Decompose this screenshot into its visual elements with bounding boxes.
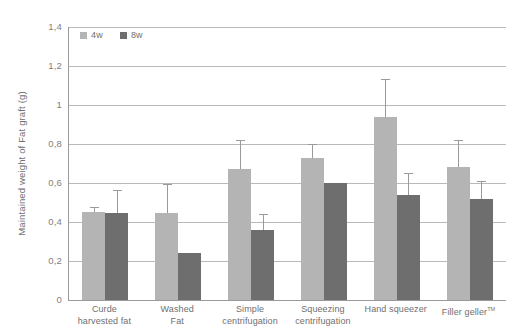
legend-item-8w: 8w [120, 31, 143, 40]
error-bar-8w-6 [481, 182, 482, 199]
legend-swatch-4w-icon [80, 32, 87, 39]
error-bar-4w-6 [458, 141, 459, 167]
bar-8w-6 [470, 199, 493, 300]
x-axis-label-line: Filler gellerTM [419, 304, 518, 319]
x-axis-label-6: Filler gellerTM [419, 304, 518, 319]
legend-swatch-8w-icon [120, 32, 127, 39]
trademark-symbol: TM [487, 306, 495, 312]
plot-area [68, 27, 506, 301]
error-bar-cap-4w-6 [454, 140, 463, 141]
y-tick-label: 0,4 [30, 217, 62, 227]
y-axis-ticks: 1,41,210,80,60,40,20 [30, 27, 62, 300]
y-tick-label: 0,2 [30, 256, 62, 266]
y-tick-label: 0,6 [30, 178, 62, 188]
chart-legend: 4w 8w [80, 31, 143, 40]
y-tick-label: 1,4 [30, 22, 62, 32]
error-bar-cap-8w-6 [477, 181, 486, 182]
bar-chart-figure: Maintained weight of Fat graft (g) 1,41,… [0, 0, 526, 336]
x-axis-labels: Curdeharvested fatWashedFatSimplecentrif… [68, 304, 505, 336]
bar-group [69, 27, 506, 300]
y-tick-label: 1,2 [30, 61, 62, 71]
y-axis-title: Maintained weight of Fat graft (g) [14, 27, 30, 300]
bar-4w-6 [447, 167, 470, 300]
legend-label-8w: 8w [131, 31, 143, 40]
y-tick-label: 0,8 [30, 139, 62, 149]
x-axis-label-line: centrifugation [274, 316, 373, 328]
legend-item-4w: 4w [80, 31, 103, 40]
legend-label-4w: 4w [91, 31, 103, 40]
y-tick-label: 1 [30, 100, 62, 110]
